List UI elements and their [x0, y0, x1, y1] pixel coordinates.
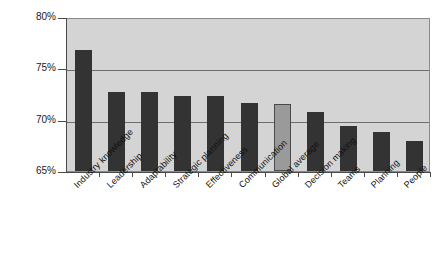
- x-tick-4: [231, 173, 232, 177]
- x-tick-3: [198, 173, 199, 177]
- x-tick-7: [331, 173, 332, 177]
- bar-chart: 80%75%70%65% Industry knowledgeLeadershi…: [0, 0, 448, 268]
- x-axis-labels: Industry knowledgeLeadershipAdaptability…: [0, 0, 448, 268]
- y-tick-75: [58, 69, 66, 70]
- x-tick-6: [298, 173, 299, 177]
- x-axis-category-label: Strategic planning: [171, 131, 230, 190]
- x-tick-9: [397, 173, 398, 177]
- x-tick-5: [265, 173, 266, 177]
- x-axis-category-label: Industry knowledge: [71, 127, 134, 190]
- y-tick-70: [58, 121, 66, 122]
- x-axis-category-label: Teams: [336, 164, 362, 190]
- x-tick-10: [430, 173, 431, 177]
- x-axis-category-label: People: [402, 163, 429, 190]
- y-tick-65: [58, 172, 66, 173]
- x-tick-2: [165, 173, 166, 177]
- x-tick-1: [132, 173, 133, 177]
- y-tick-80: [58, 18, 66, 19]
- x-tick-0: [99, 173, 100, 177]
- x-tick-8: [364, 173, 365, 177]
